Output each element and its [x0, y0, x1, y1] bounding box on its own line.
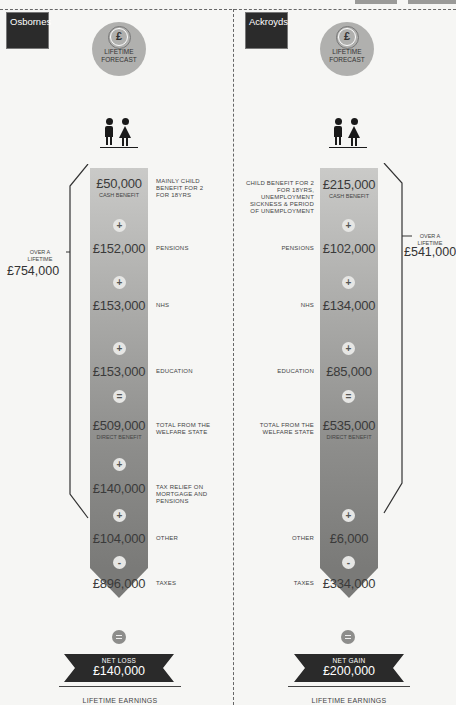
other-amount: £104,000	[87, 531, 151, 546]
forecast-label: LIFETIME FORECAST	[320, 48, 374, 63]
pensions-note: PENSIONS	[156, 245, 189, 252]
lifetime-forecast-badge: £ LIFETIME FORECAST	[92, 22, 146, 76]
family-tag: Osbornes	[6, 12, 49, 49]
plus-icon: +	[113, 458, 126, 471]
result-label: NET LOSS	[64, 654, 174, 664]
lifetime-total: £541,000	[404, 245, 456, 259]
total-welfare-note: TOTAL FROM THE WELFARE STATE	[156, 422, 216, 436]
cash-benefit-amount: £50,000	[87, 176, 151, 191]
tax-relief-note: TAX RELIEF ON MORTGAGE AND PENSIONS	[156, 484, 216, 505]
direct-benefit-sub: DIRECT BENEFIT	[320, 434, 378, 441]
plus-icon: +	[342, 509, 355, 522]
woman-icon	[348, 118, 360, 146]
other-note: OTHER	[156, 535, 178, 542]
pensions-amount: £102,000	[317, 241, 381, 256]
forecast-label: LIFETIME FORECAST	[92, 48, 146, 63]
earnings-rule	[288, 686, 410, 687]
pensions-amount: £152,000	[87, 241, 151, 256]
pound-coin-icon: £	[110, 28, 128, 46]
tax-relief-amount: £140,000	[87, 481, 151, 496]
plus-icon: +	[113, 342, 126, 355]
cash-benefit-sub: CASH BENEFIT	[320, 193, 378, 200]
pound-coin-icon: £	[338, 28, 356, 46]
woman-icon	[119, 118, 131, 146]
education-amount: £85,000	[317, 364, 381, 379]
plus-icon: +	[342, 276, 355, 289]
cash-benefit-note: MAINLY CHILD BENEFIT FOR 2 FOR 18YRS	[156, 178, 216, 199]
pensions-note: PENSIONS	[240, 245, 314, 252]
taxes-note: TAXES	[240, 580, 314, 587]
total-welfare-amount: £509,000	[87, 418, 151, 433]
equals-circle-icon	[112, 630, 126, 644]
vertical-divider	[233, 9, 234, 705]
lifetime-forecast-badge: £ LIFETIME FORECAST	[320, 22, 374, 76]
cash-benefit-sub: CASH BENEFIT	[90, 192, 148, 199]
education-note: EDUCATION	[240, 368, 314, 375]
couple-icon	[332, 118, 364, 148]
nhs-amount: £134,000	[317, 298, 381, 313]
equals-icon: =	[113, 390, 126, 403]
result-value: £140,000	[64, 664, 174, 678]
other-amount: £6,000	[317, 531, 381, 546]
taxes-note: TAXES	[156, 580, 176, 587]
total-welfare-note: TOTAL FROM THE WELFARE STATE	[240, 422, 314, 436]
earnings-rule	[59, 686, 181, 687]
result-banner: NET GAIN £200,000	[294, 654, 404, 682]
family-tag: Ackroyds	[245, 12, 288, 49]
equals-circle-icon	[341, 630, 355, 644]
man-icon	[105, 118, 113, 145]
total-welfare-amount: £535,000	[317, 418, 381, 433]
other-note: OTHER	[240, 535, 314, 542]
education-note: EDUCATION	[156, 368, 193, 375]
taxes-amount: £896,000	[87, 576, 151, 591]
equals-icon: =	[342, 390, 355, 403]
cash-benefit-amount: £215,000	[317, 177, 381, 192]
direct-benefit-sub: DIRECT BENEFIT	[90, 434, 148, 441]
couple-icon	[103, 118, 135, 148]
result-value: £200,000	[294, 664, 404, 678]
result-banner: NET LOSS £140,000	[64, 654, 174, 682]
lifetime-total: £754,000	[7, 264, 59, 278]
plus-icon: +	[113, 276, 126, 289]
plus-icon: +	[113, 219, 126, 232]
cash-benefit-note: CHILD BENEFIT FOR 2 FOR 18YRS, UNEMPLOYM…	[240, 180, 314, 215]
footer-label: LIFETIME EARNINGS	[59, 697, 181, 704]
lifetime-label: OVER A LIFETIME	[22, 249, 58, 263]
minus-icon: -	[342, 556, 355, 569]
nhs-note: NHS	[240, 302, 314, 309]
man-icon	[334, 118, 342, 145]
education-amount: £153,000	[87, 364, 151, 379]
plus-icon: +	[113, 509, 126, 522]
top-strip-right	[408, 0, 456, 4]
nhs-note: NHS	[156, 302, 169, 309]
result-label: NET GAIN	[294, 654, 404, 664]
nhs-amount: £153,000	[87, 298, 151, 313]
plus-icon: +	[342, 219, 355, 232]
lifetime-bracket	[66, 164, 90, 520]
taxes-amount: £334,000	[317, 576, 381, 591]
horizontal-divider	[0, 9, 456, 10]
footer-label: LIFETIME EARNINGS	[288, 697, 410, 704]
lifetime-bracket	[382, 163, 414, 529]
plus-icon: +	[342, 342, 355, 355]
top-strip-left	[355, 0, 397, 4]
minus-icon: -	[113, 556, 126, 569]
